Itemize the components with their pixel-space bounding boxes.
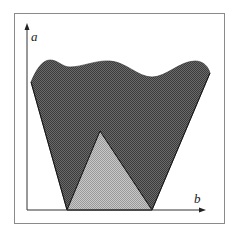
x-axis-arrow-icon	[199, 208, 206, 213]
y-axis-arrow-icon	[25, 23, 30, 30]
x-axis-label: b	[194, 191, 201, 206]
y-axis-label: a	[31, 29, 38, 44]
diagram-canvas: a b	[0, 0, 238, 242]
